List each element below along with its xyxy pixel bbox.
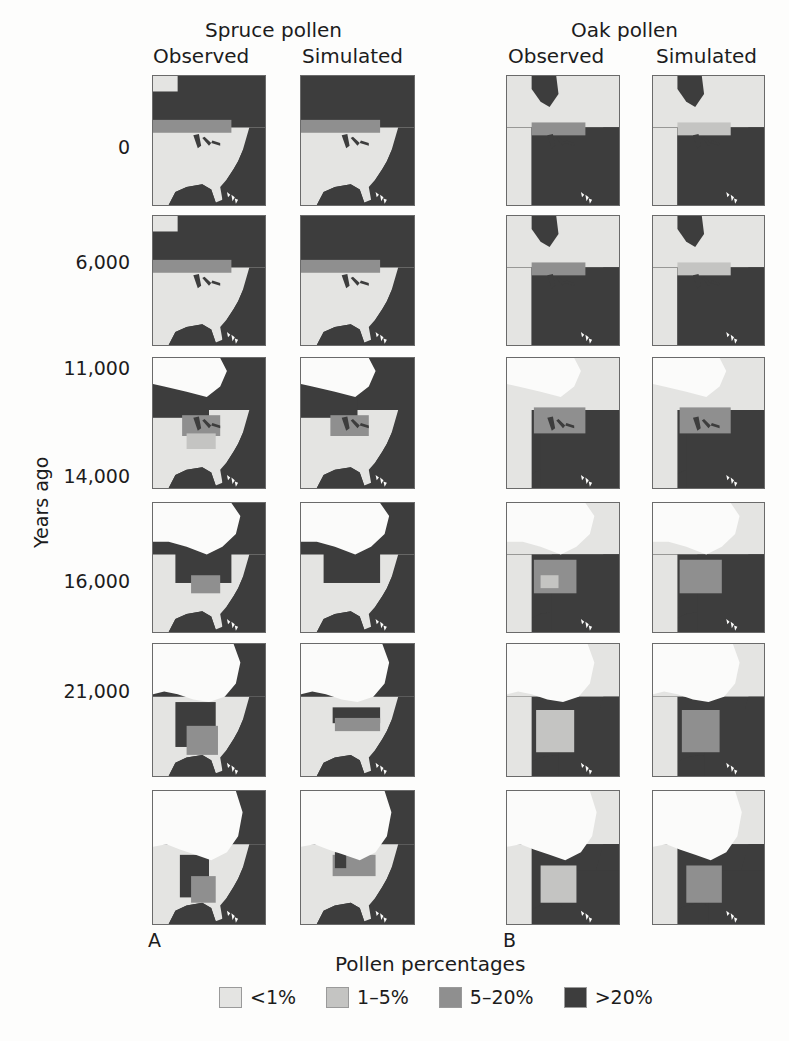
map-panel-spruce-observed-16000: [152, 643, 266, 777]
legend-swatch-gt20: [564, 987, 587, 1008]
legend-label-lt1: <1%: [250, 986, 296, 1008]
map-panel-oak-simulated-11000: [652, 357, 765, 489]
panel-letter-b: B: [503, 929, 516, 951]
map-panel-oak-simulated-21000: [652, 790, 765, 925]
map-panel-spruce-simulated-11000: [300, 357, 415, 489]
oak-observed-title: Observed: [508, 44, 604, 68]
legend: <1% 1–5% 5–20% >20%: [219, 986, 683, 1008]
map-panel-spruce-observed-14000: [152, 502, 266, 633]
row-label-14000: 14,000: [50, 465, 130, 487]
map-panel-oak-simulated-6000: [652, 215, 765, 346]
map-panel-spruce-simulated-0: [300, 75, 415, 206]
map-panel-spruce-observed-0: [152, 75, 266, 206]
panel-letter-a: A: [148, 929, 161, 951]
map-panel-spruce-simulated-16000: [300, 643, 415, 777]
legend-label-5-20: 5–20%: [470, 986, 534, 1008]
map-panel-spruce-observed-21000: [152, 790, 266, 925]
legend-swatch-1-5: [326, 987, 349, 1008]
spruce-group-title: Spruce pollen: [205, 18, 342, 42]
legend-label-1-5: 1–5%: [357, 986, 409, 1008]
legend-label-gt20: >20%: [595, 986, 653, 1008]
map-panel-spruce-simulated-6000: [300, 215, 415, 346]
legend-swatch-lt1: [219, 987, 242, 1008]
spruce-observed-title: Observed: [153, 44, 249, 68]
map-panel-oak-simulated-14000: [652, 502, 765, 633]
row-label-11000: 11,000: [50, 357, 130, 379]
legend-item-lt1: <1%: [219, 986, 296, 1008]
map-panel-spruce-observed-11000: [152, 357, 266, 489]
spruce-simulated-title: Simulated: [302, 44, 403, 68]
oak-simulated-title: Simulated: [656, 44, 757, 68]
map-panel-spruce-simulated-21000: [300, 790, 415, 925]
map-panel-oak-observed-21000: [506, 790, 620, 925]
map-panel-oak-simulated-0: [652, 75, 765, 206]
row-label-6000: 6,000: [50, 251, 130, 273]
legend-title: Pollen percentages: [335, 952, 525, 976]
map-panel-spruce-simulated-14000: [300, 502, 415, 633]
map-panel-oak-observed-0: [506, 75, 620, 206]
row-label-0: 0: [50, 136, 130, 158]
map-panel-oak-simulated-16000: [652, 643, 765, 777]
y-axis-label: Years ago: [30, 457, 52, 549]
map-panel-spruce-observed-6000: [152, 215, 266, 346]
map-panel-oak-observed-11000: [506, 357, 620, 489]
legend-item-gt20: >20%: [564, 986, 653, 1008]
map-panel-oak-observed-14000: [506, 502, 620, 633]
oak-group-title: Oak pollen: [571, 18, 678, 42]
legend-swatch-5-20: [439, 987, 462, 1008]
row-label-16000: 16,000: [50, 570, 130, 592]
legend-item-1-5: 1–5%: [326, 986, 409, 1008]
map-panel-oak-observed-6000: [506, 215, 620, 346]
map-panel-oak-observed-16000: [506, 643, 620, 777]
legend-item-5-20: 5–20%: [439, 986, 534, 1008]
row-label-21000: 21,000: [50, 680, 130, 702]
